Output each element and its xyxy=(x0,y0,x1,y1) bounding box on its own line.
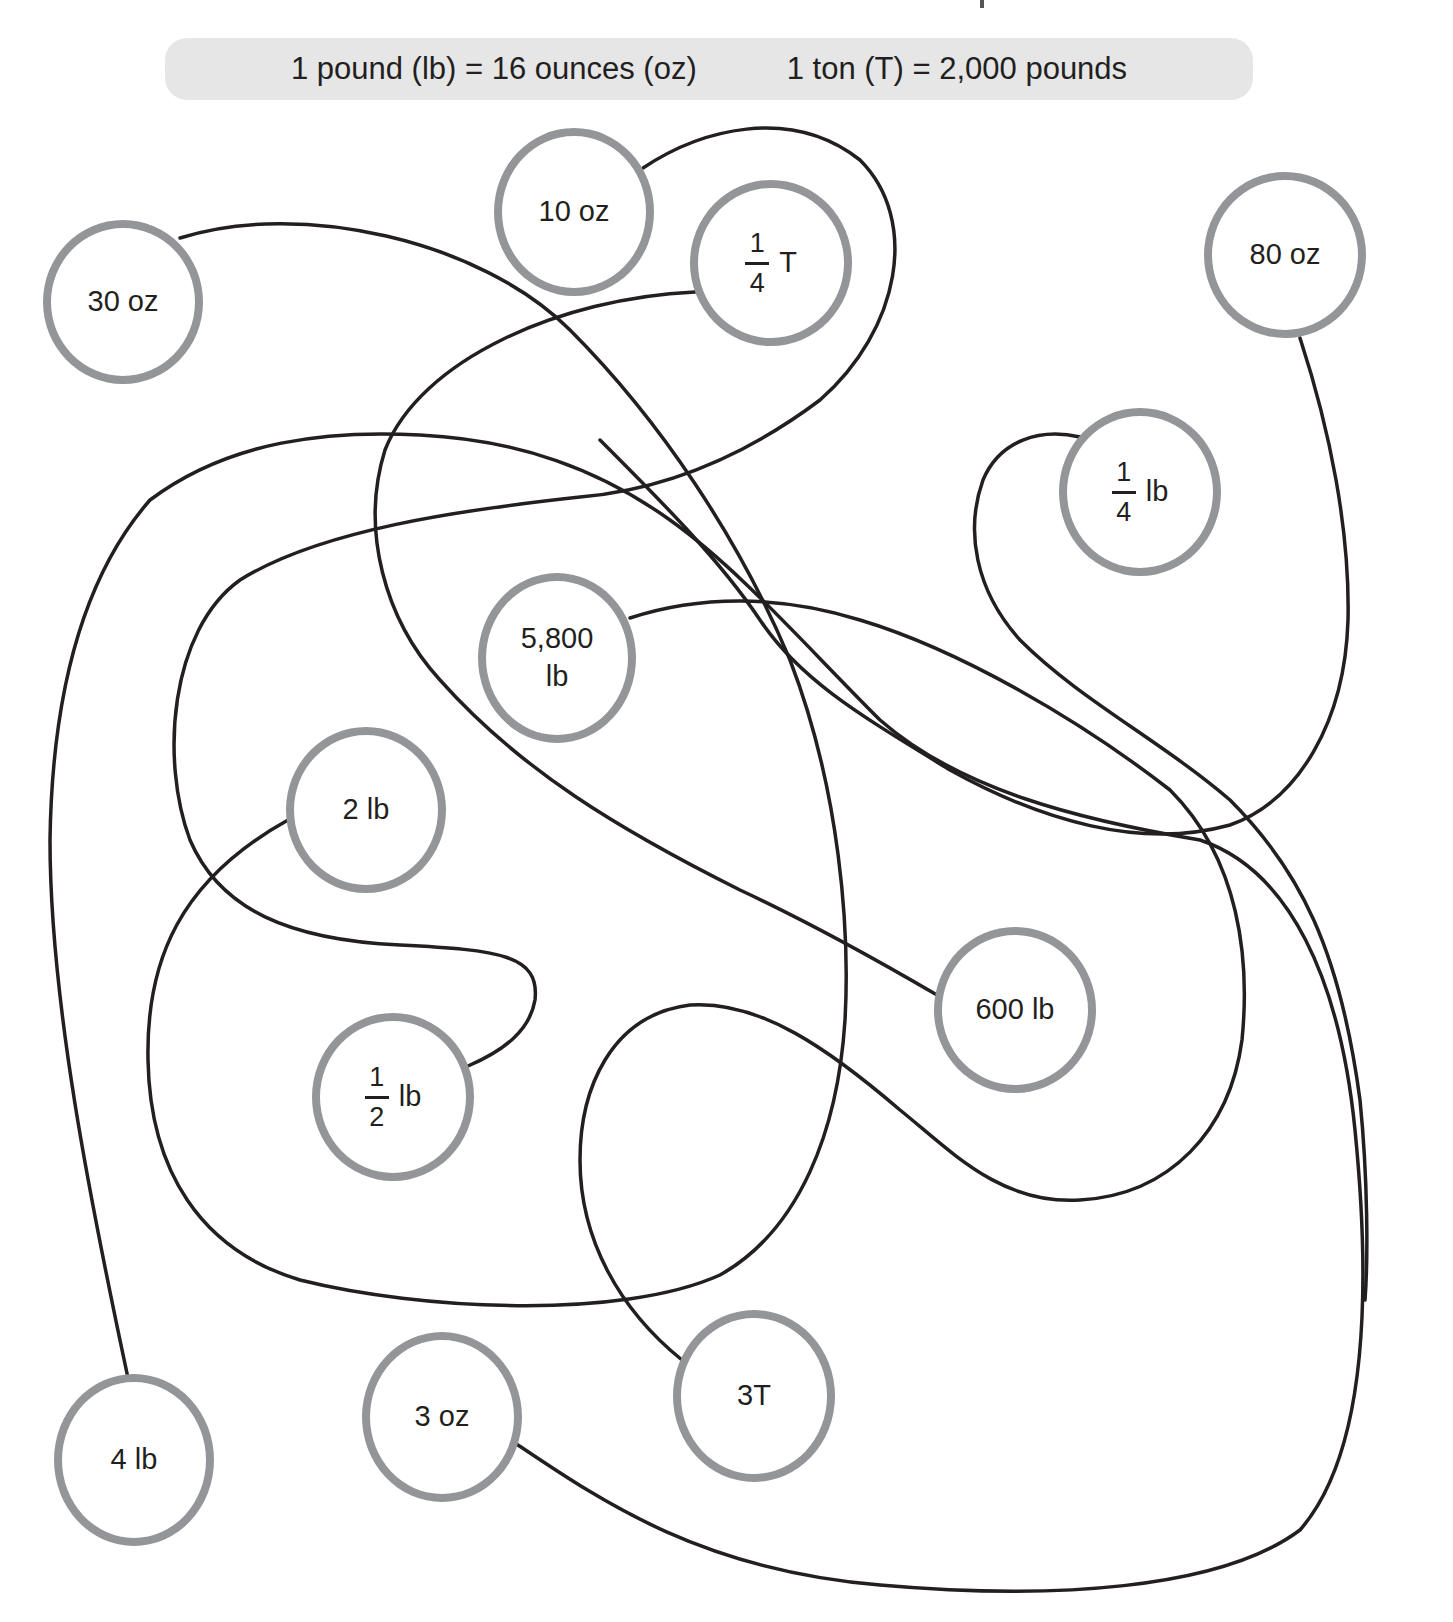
fraction: 1 4 xyxy=(745,229,769,297)
unit-label: lb xyxy=(399,1078,422,1116)
answer-circle-80oz[interactable]: 80 oz xyxy=(1204,172,1366,338)
circle-label: 600 lb xyxy=(975,991,1054,1029)
line-from-quarter-ton xyxy=(375,292,937,995)
fraction: 1 2 xyxy=(365,1063,389,1131)
fraction-bar xyxy=(745,262,769,265)
circle-label: 3 oz xyxy=(415,1398,470,1436)
fraction-numerator: 1 xyxy=(750,229,765,257)
circle-label-unit: lb xyxy=(546,658,569,696)
answer-circle-5800lb[interactable]: 5,800 lb xyxy=(478,573,636,743)
answer-circle-half-lb[interactable]: 1 2 lb xyxy=(312,1013,474,1181)
answer-circle-3oz[interactable]: 3 oz xyxy=(362,1332,522,1502)
circle-label: 2 lb xyxy=(343,791,390,829)
unit-label: lb xyxy=(1146,473,1169,511)
answer-circle-3T[interactable]: 3T xyxy=(673,1310,835,1482)
answer-circle-4lb[interactable]: 4 lb xyxy=(54,1374,214,1546)
answer-circle-quarter-lb[interactable]: 1 4 lb xyxy=(1059,408,1221,576)
answer-circle-2lb[interactable]: 2 lb xyxy=(286,727,446,893)
circle-label: 4 lb xyxy=(111,1441,158,1479)
answer-circle-30oz[interactable]: 30 oz xyxy=(43,220,203,384)
circle-label: 3T xyxy=(737,1377,771,1415)
fraction-denominator: 4 xyxy=(1116,498,1131,526)
circle-label: 30 oz xyxy=(88,283,159,321)
line-from-30oz xyxy=(148,224,846,1306)
stacked-label: 5,800 lb xyxy=(521,620,594,695)
fraction-bar xyxy=(1112,491,1136,494)
fraction: 1 4 xyxy=(1112,458,1136,526)
circle-label-value: 5,800 xyxy=(521,620,594,658)
answer-circle-600lb[interactable]: 600 lb xyxy=(934,927,1096,1093)
answer-circle-quarter-ton[interactable]: 1 4 T xyxy=(690,180,852,346)
unit-label: T xyxy=(779,244,797,282)
line-from-80oz xyxy=(600,338,1348,834)
circle-label: 10 oz xyxy=(539,193,610,231)
fraction-bar xyxy=(365,1096,389,1099)
fraction-numerator: 1 xyxy=(1116,458,1131,486)
fraction-denominator: 4 xyxy=(750,269,765,297)
fraction-denominator: 2 xyxy=(369,1103,384,1131)
answer-circle-10oz[interactable]: 10 oz xyxy=(494,128,654,296)
circle-label: 80 oz xyxy=(1250,236,1321,274)
fraction-numerator: 1 xyxy=(369,1063,384,1091)
